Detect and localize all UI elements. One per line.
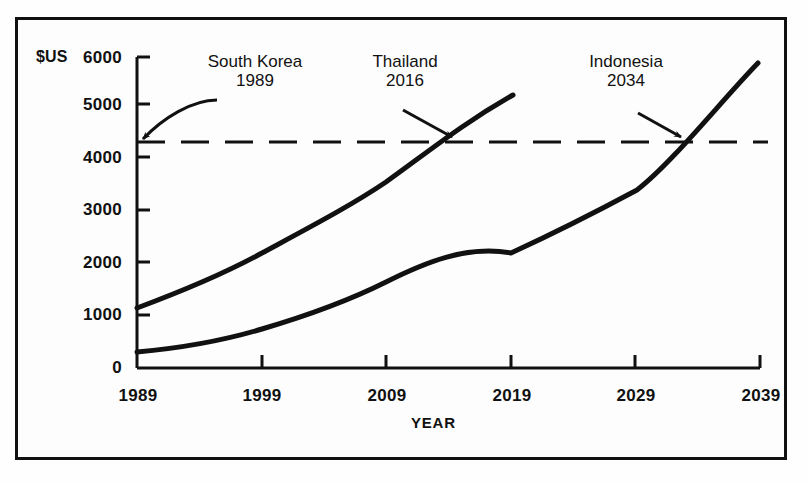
chart-plot-area [0,0,807,483]
annotation-arrow-indonesia [638,113,681,137]
chart-figure: $US 6000 5000 4000 3000 2000 1000 0 1989… [0,0,807,483]
y-axis-ticks [137,57,150,315]
x-axis-ticks [262,355,760,368]
annotation-arrow-south-korea [143,100,217,139]
annotation-arrow-thailand [403,110,452,137]
series-line-thailand [137,95,513,308]
series-line-indonesia-final [137,63,758,352]
